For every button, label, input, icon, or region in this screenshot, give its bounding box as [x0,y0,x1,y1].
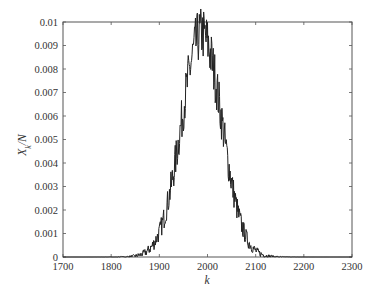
x-axis-ticks: 1700180019002000210022002300 [53,22,363,272]
y-tick-label: 0.009 [34,40,58,51]
y-tick-label: 0.004 [34,158,58,169]
x-tick-label: 1800 [101,261,122,272]
x-tick-label: 2000 [197,261,218,272]
y-tick-label: 0.006 [34,111,58,122]
y-axis-ticks: 00.0010.0020.0030.0040.0050.0060.0070.00… [34,17,352,263]
x-tick-label: 2100 [245,261,266,272]
y-tick-label: 0.003 [34,181,58,192]
chart: 00.0010.0020.0030.0040.0050.0060.0070.00… [0,0,375,305]
x-axis-label: k [204,274,210,286]
y-tick-label: 0.001 [34,228,58,239]
x-tick-label: 2300 [342,261,363,272]
series-line [63,9,352,257]
x-tick-label: 1700 [53,261,74,272]
x-tick-label: 1900 [149,261,170,272]
y-tick-label: 0.002 [34,205,58,216]
x-tick-label: 2200 [293,261,314,272]
plot-frame [63,22,352,257]
y-tick-label: 0.005 [34,134,58,145]
y-tick-label: 0.008 [34,64,58,75]
y-tick-label: 0.01 [40,17,58,28]
y-tick-label: 0.007 [34,87,58,98]
y-axis-label: Xk/N [16,133,33,157]
